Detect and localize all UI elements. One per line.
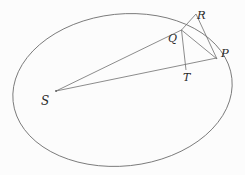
segment-S-P <box>56 58 217 91</box>
segment-S-Q <box>56 30 182 91</box>
point-label-R: R <box>197 10 206 22</box>
point-label-T: T <box>183 72 190 83</box>
perpendicular-group <box>182 30 187 70</box>
ellipse-orbit <box>5 3 240 175</box>
vertex-marker-S <box>55 90 57 92</box>
ellipse-orbit-group <box>5 3 240 175</box>
segment-Q-R <box>182 14 197 30</box>
vertex-markers-group <box>55 90 57 92</box>
segment-Q-T <box>182 30 187 70</box>
point-label-S: S <box>41 95 49 107</box>
geometry-figure: S Q R T P <box>0 0 245 175</box>
point-label-P: P <box>221 48 229 60</box>
segment-Q-P <box>182 30 218 59</box>
point-label-Q: Q <box>168 33 177 44</box>
diagram-canvas <box>0 0 245 175</box>
